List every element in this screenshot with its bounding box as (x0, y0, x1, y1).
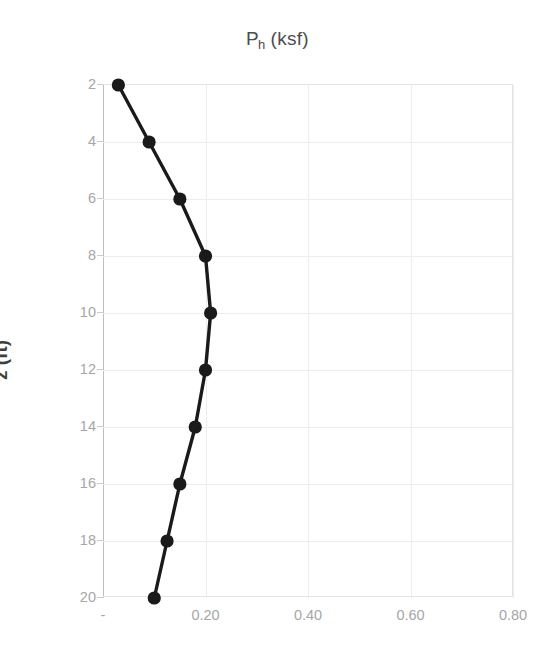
y-axis-tick-label: 14 (52, 419, 96, 433)
y-axis-tick-label: 6 (52, 191, 96, 205)
x-axis-tick-label: - (63, 607, 143, 623)
y-axis-tick-label: 16 (52, 476, 96, 490)
y-axis-tick-mark (97, 540, 103, 541)
chart-container: Ph(ksf) z (ft) 2468101214161820 -0.200.4… (0, 0, 555, 653)
data-point-marker (173, 192, 186, 205)
y-axis-tick-mark (97, 198, 103, 199)
data-point-marker (199, 249, 212, 262)
y-axis-tick-label: 10 (52, 305, 96, 319)
data-point-marker (173, 477, 186, 490)
chart-title-subscript: h (258, 37, 266, 52)
x-axis-tick-label: 0.40 (268, 607, 348, 623)
y-axis-tick-label: 20 (52, 590, 96, 604)
y-axis-tick-mark (97, 597, 103, 598)
data-point-marker (112, 78, 125, 91)
series-markers-ph (112, 78, 217, 604)
y-axis-tick-mark (97, 483, 103, 484)
gridline-vertical (513, 85, 514, 598)
data-point-marker (148, 591, 161, 604)
y-axis-tick-label: 2 (52, 77, 96, 91)
y-axis-tick-mark (97, 312, 103, 313)
data-point-marker (199, 363, 212, 376)
y-axis-tick-mark (97, 426, 103, 427)
y-axis-tick-labels: 2468101214161820 (46, 0, 96, 653)
series-line-ph (118, 85, 210, 598)
data-point-marker (160, 534, 173, 547)
y-axis-tick-label: 8 (52, 248, 96, 262)
data-point-marker (189, 420, 202, 433)
y-axis-tick-mark (97, 141, 103, 142)
x-axis-tick-labels: -0.200.400.600.80 (0, 607, 555, 631)
y-axis-tick-label: 12 (52, 362, 96, 376)
plot-area (103, 84, 513, 597)
data-point-marker (143, 135, 156, 148)
data-series-ph (103, 85, 513, 598)
x-axis-tick-label: 0.80 (473, 607, 553, 623)
y-axis-tick-label: 18 (52, 533, 96, 547)
y-axis-tick-mark (97, 84, 103, 85)
x-axis-tick-label: 0.20 (166, 607, 246, 623)
y-axis-tick-mark (97, 255, 103, 256)
chart-title-unit: (ksf) (271, 28, 309, 49)
y-axis-tick-label: 4 (52, 134, 96, 148)
y-axis-tick-mark (97, 369, 103, 370)
data-point-marker (204, 306, 217, 319)
x-axis-tick-label: 0.60 (371, 607, 451, 623)
